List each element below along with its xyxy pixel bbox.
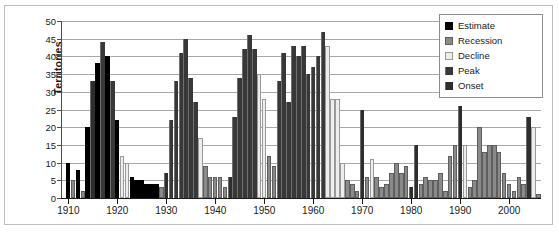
bar bbox=[218, 177, 223, 198]
y-axis-tick-label: 45 bbox=[45, 33, 56, 44]
bar bbox=[252, 49, 257, 198]
bar bbox=[203, 166, 208, 198]
chart-frame: Territories 0510152025303540455019101920… bbox=[4, 5, 553, 225]
y-axis-tick bbox=[57, 110, 61, 111]
bar bbox=[409, 187, 414, 198]
bar bbox=[232, 117, 237, 198]
y-axis-tick-label: 40 bbox=[45, 51, 56, 62]
bar bbox=[213, 177, 218, 198]
bar bbox=[443, 191, 448, 198]
bar bbox=[267, 156, 272, 198]
legend-swatch-onset bbox=[445, 82, 453, 90]
x-axis-tick-label: 1950 bbox=[253, 205, 275, 216]
bar bbox=[526, 117, 531, 198]
x-axis-tick-label: 1970 bbox=[351, 205, 373, 216]
bar bbox=[193, 102, 198, 198]
legend-label: Estimate bbox=[458, 21, 495, 31]
x-axis-tick bbox=[509, 199, 510, 204]
x-axis-tick bbox=[68, 199, 69, 204]
bar bbox=[188, 78, 193, 198]
bar bbox=[105, 56, 110, 198]
legend-item: Onset bbox=[445, 78, 538, 93]
bar bbox=[350, 184, 355, 198]
bar bbox=[365, 177, 370, 198]
bar bbox=[335, 99, 340, 198]
bar bbox=[90, 81, 95, 198]
y-axis-tick bbox=[57, 198, 61, 199]
y-axis-tick bbox=[57, 74, 61, 75]
y-axis-tick bbox=[57, 180, 61, 181]
bar bbox=[237, 78, 242, 198]
bar bbox=[512, 191, 517, 198]
bar bbox=[340, 163, 345, 198]
bar bbox=[374, 177, 379, 198]
y-axis-tick bbox=[57, 21, 61, 22]
x-axis-tick-label: 1990 bbox=[449, 205, 471, 216]
bar bbox=[130, 177, 135, 198]
legend-label: Recession bbox=[458, 36, 502, 46]
legend-item: Decline bbox=[445, 48, 538, 63]
bar bbox=[66, 163, 71, 198]
legend-swatch-decline bbox=[445, 52, 453, 60]
bar bbox=[198, 138, 203, 198]
legend-swatch-peak bbox=[445, 67, 453, 75]
x-axis-tick bbox=[117, 199, 118, 204]
x-axis-tick bbox=[215, 199, 216, 204]
bar bbox=[306, 74, 311, 198]
bar bbox=[81, 191, 86, 198]
x-axis-tick-label: 1980 bbox=[400, 205, 422, 216]
bar bbox=[355, 191, 360, 198]
bar bbox=[472, 180, 477, 198]
y-axis-tick-label: 0 bbox=[51, 193, 56, 204]
bar bbox=[399, 173, 404, 198]
x-axis-tick bbox=[166, 199, 167, 204]
y-axis-tick-label: 20 bbox=[45, 122, 56, 133]
chart-legend: EstimateRecessionDeclinePeakOnset bbox=[439, 14, 543, 98]
bar bbox=[492, 145, 497, 198]
bar bbox=[384, 184, 389, 198]
x-axis-tick-label: 1940 bbox=[204, 205, 226, 216]
bar bbox=[164, 173, 169, 198]
y-axis-tick-label: 5 bbox=[51, 175, 56, 186]
bar bbox=[125, 163, 130, 198]
bar bbox=[507, 184, 512, 198]
bar bbox=[257, 74, 262, 198]
bar bbox=[521, 184, 526, 198]
legend-item: Recession bbox=[445, 33, 538, 48]
bar bbox=[228, 177, 233, 198]
y-axis-tick bbox=[57, 92, 61, 93]
y-axis-tick-label: 50 bbox=[45, 16, 56, 27]
y-axis-tick bbox=[57, 127, 61, 128]
bar bbox=[120, 156, 125, 198]
bar bbox=[277, 81, 282, 198]
bar bbox=[223, 187, 228, 198]
y-axis-tick-label: 15 bbox=[45, 139, 56, 150]
bar bbox=[262, 99, 267, 198]
bar bbox=[428, 180, 433, 198]
legend-label: Onset bbox=[458, 81, 483, 91]
bar bbox=[517, 177, 522, 198]
bar bbox=[453, 145, 458, 198]
bar bbox=[321, 32, 326, 198]
x-axis-tick-label: 1920 bbox=[106, 205, 128, 216]
bar bbox=[419, 184, 424, 198]
bar bbox=[487, 145, 492, 198]
bar bbox=[325, 46, 330, 198]
bar bbox=[144, 184, 149, 198]
bar bbox=[423, 177, 428, 198]
bar bbox=[208, 177, 213, 198]
bar bbox=[183, 39, 188, 198]
bar bbox=[247, 35, 252, 198]
bar bbox=[85, 127, 90, 198]
bar bbox=[286, 102, 291, 198]
bar bbox=[414, 145, 419, 198]
bar bbox=[536, 194, 541, 198]
bar bbox=[345, 180, 350, 198]
x-axis-tick-label: 2000 bbox=[498, 205, 520, 216]
y-axis-tick-label: 35 bbox=[45, 69, 56, 80]
bar bbox=[438, 173, 443, 198]
bar bbox=[76, 170, 81, 198]
bar bbox=[477, 127, 482, 198]
bar bbox=[301, 46, 306, 198]
bar bbox=[134, 180, 139, 198]
